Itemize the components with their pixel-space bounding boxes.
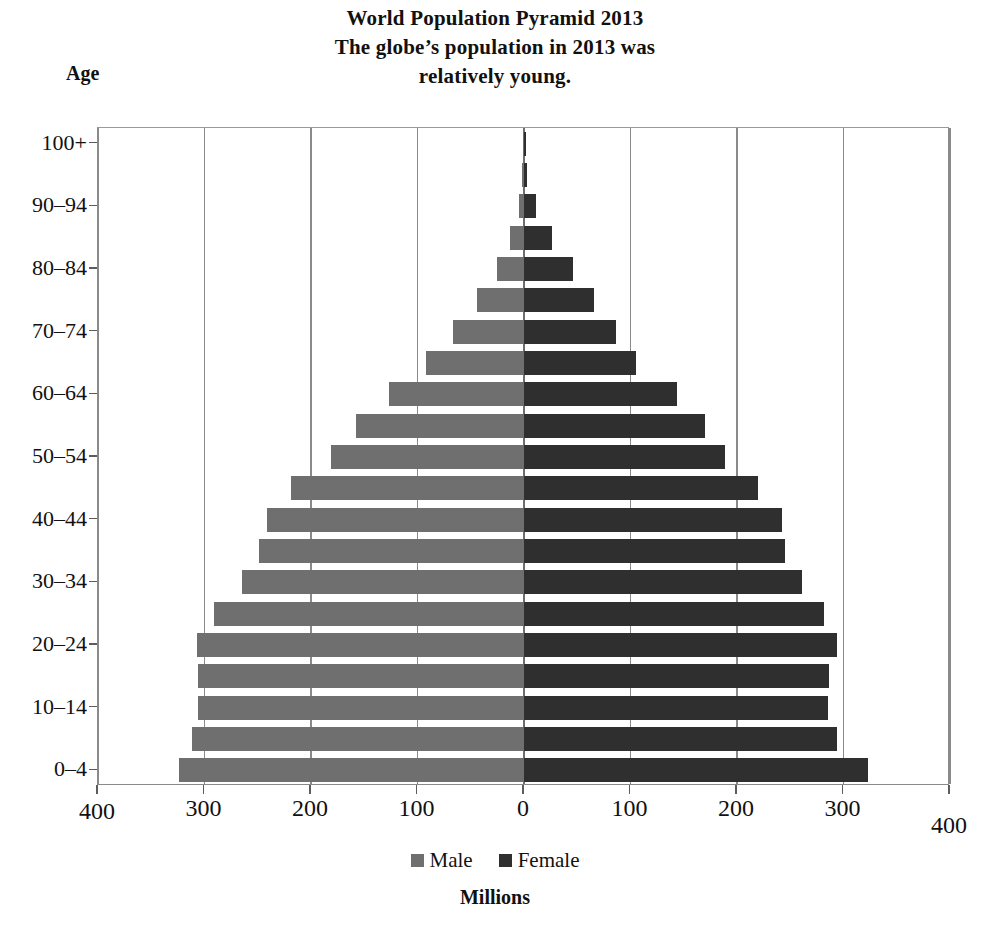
bar-male [389,382,524,406]
gridline [949,128,950,784]
y-axis-tick-label: 70–74 [32,320,87,342]
y-axis-tick-label: 30–34 [32,570,87,592]
bar-female [524,226,552,250]
x-axis-tick-label: 100 [585,795,675,821]
bar-male [242,570,524,594]
pyramid-band [98,316,948,347]
bar-female [524,602,824,626]
pyramid-band [98,347,948,378]
bar-male [477,288,524,312]
bar-female [524,257,573,281]
x-axis-tick-label: 300 [798,795,888,821]
bar-male [214,602,524,626]
bar-male [291,476,524,500]
y-axis-tick [89,205,97,206]
bar-male [267,508,524,532]
pyramid-band [98,629,948,660]
bar-male [331,445,524,469]
pyramid-band [98,504,948,535]
x-axis-tick-label: 200 [691,795,781,821]
bar-male [197,633,524,657]
bar-female [524,132,526,156]
x-axis-tick [948,785,949,794]
pyramid-band [98,285,948,316]
pyramid-band [98,410,948,441]
chart-title-line-1: World Population Pyramid 2013 [0,4,990,33]
legend-label-male: Male [430,848,473,873]
chart-legend: Male Female [0,848,990,873]
pyramid-band [98,253,948,284]
bar-female [524,194,536,218]
x-axis-tick [629,785,630,794]
y-axis-tick [89,267,97,268]
y-axis-tick-label: 100+ [42,132,87,154]
y-axis-tick [89,769,97,770]
y-axis-tick [89,393,97,394]
bar-female [524,163,527,187]
pyramid-band [98,661,948,692]
y-axis-tick [89,706,97,707]
y-axis-tick-label: 40–44 [32,508,87,530]
x-axis-tick-label: 0 [478,795,568,821]
bar-male [198,696,524,720]
y-axis-tick-label: 0–4 [54,758,87,780]
x-axis-tick [522,785,523,794]
pyramid-band [98,567,948,598]
y-axis-title: Age [66,62,99,85]
legend-swatch-male [411,854,424,867]
y-axis-tick-label: 90–94 [32,194,87,216]
pyramid-band [98,598,948,629]
plot-area [97,127,949,785]
bar-female [524,727,837,751]
x-axis-tick [96,785,97,794]
bar-male [497,257,524,281]
pyramid-band [98,535,948,566]
bar-male [192,727,524,751]
bar-female [524,539,785,563]
x-axis-tick [842,785,843,794]
bar-female [524,414,705,438]
y-axis-tick [89,330,97,331]
pyramid-band [98,191,948,222]
bar-male [198,664,524,688]
chart-title: World Population Pyramid 2013 The globe’… [0,4,990,91]
x-axis-tick-label: 300 [159,795,249,821]
bar-male [259,539,524,563]
x-axis-tick [416,785,417,794]
bar-female [524,351,636,375]
pyramid-band [98,473,948,504]
y-axis-tick [89,455,97,456]
legend-label-female: Female [518,848,580,873]
x-axis-tick [309,785,310,794]
bar-male [453,320,524,344]
legend-item-female: Female [499,848,580,873]
bar-female [524,382,677,406]
chart-subtitle-line-2: relatively young. [0,62,990,91]
y-axis-tick-label: 80–84 [32,257,87,279]
y-axis-tick [89,142,97,143]
pyramid-band [98,222,948,253]
x-axis-tick-label: 400 [904,812,990,838]
bar-female [524,664,829,688]
bar-female [524,696,828,720]
bar-female [524,476,758,500]
bar-female [524,508,782,532]
chart-subtitle-line-1: The globe’s population in 2013 was [0,33,990,62]
bar-female [524,288,594,312]
pyramid-band [98,692,948,723]
pyramid-band [98,379,948,410]
pyramid-band [98,159,948,190]
x-axis-tick-label: 100 [372,795,462,821]
bar-female [524,758,868,782]
x-axis-tick-label: 200 [265,795,355,821]
x-axis-tick-label: 400 [52,798,142,824]
pyramid-band [98,128,948,159]
bar-male [356,414,524,438]
bar-female [524,633,837,657]
x-axis-tick [735,785,736,794]
bar-female [524,570,802,594]
bar-male [179,758,524,782]
y-axis-tick-label: 50–54 [32,445,87,467]
legend-swatch-female [499,854,512,867]
x-axis-tick [203,785,204,794]
